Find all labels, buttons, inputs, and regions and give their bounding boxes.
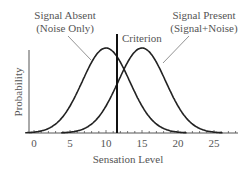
svg-text:5: 5	[67, 137, 73, 149]
svg-text:15: 15	[137, 137, 149, 149]
sdt-chart: 0510152025 Criterion Signal Absent (Nois…	[0, 0, 252, 176]
criterion-label: Criterion	[122, 32, 162, 44]
svg-text:10: 10	[101, 137, 113, 149]
noise-curve	[25, 48, 186, 133]
absent-label-1: Signal Absent	[34, 9, 95, 21]
svg-text:20: 20	[173, 137, 185, 149]
svg-text:25: 25	[209, 137, 221, 149]
svg-text:0: 0	[31, 137, 37, 149]
y-axis-label: Probability	[12, 67, 24, 116]
x-axis-label: Sensation Level	[93, 153, 164, 165]
signal-noise-curve	[61, 48, 222, 133]
present-label-1: Signal Present	[172, 9, 235, 21]
present-label-2: (Signal+Noise)	[170, 22, 238, 35]
absent-leader	[68, 36, 91, 60]
absent-label-2: (Noise Only)	[36, 22, 94, 35]
x-tick-labels: 0510152025	[31, 137, 220, 149]
present-leader	[163, 36, 189, 63]
